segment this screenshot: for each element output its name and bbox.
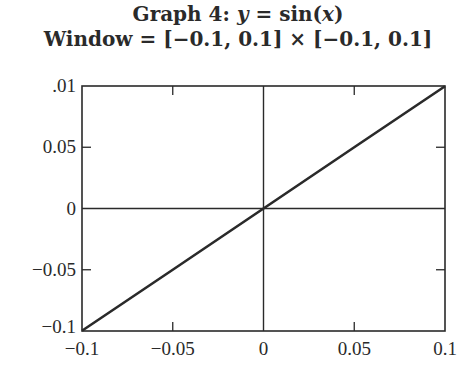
x-tick-label: 0.05 — [338, 338, 371, 359]
y-tick-label: −0.1 — [42, 316, 76, 337]
x-tick-label: −0.05 — [151, 338, 195, 359]
chart-plot: −0.1−0.0500.05.01 −0.1−0.0500.050.1 — [0, 0, 476, 371]
x-tick-label: 0.1 — [433, 338, 457, 359]
y-tick-label: .01 — [52, 75, 76, 96]
x-tick-labels: −0.1−0.0500.050.1 — [65, 338, 457, 359]
y-tick-label: 0 — [67, 198, 77, 219]
y-tick-label: −0.05 — [32, 259, 76, 280]
x-tick-label: −0.1 — [65, 338, 99, 359]
x-tick-label: 0 — [259, 338, 269, 359]
y-tick-labels: −0.1−0.0500.05.01 — [32, 75, 76, 337]
y-tick-label: 0.05 — [43, 136, 76, 157]
